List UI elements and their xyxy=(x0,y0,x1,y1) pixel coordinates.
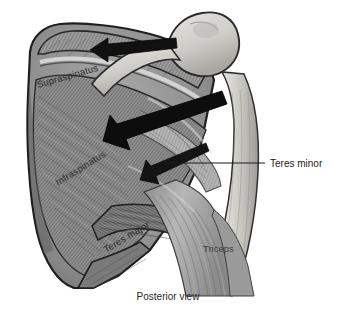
anatomical-figure: Supraspinatus Infraspinatus Teres major … xyxy=(0,0,337,314)
label-triceps: Triceps xyxy=(203,243,234,254)
label-teres-minor: Teres minor xyxy=(270,158,323,169)
humeral-head-tone xyxy=(193,22,219,38)
figure-caption: Posterior view xyxy=(137,291,201,302)
posterior-shoulder-illustration: Supraspinatus Infraspinatus Teres major … xyxy=(0,0,337,314)
